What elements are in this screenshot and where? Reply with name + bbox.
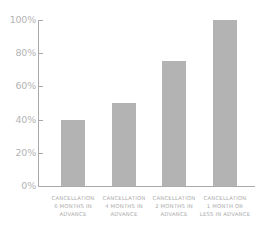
- x-label-line: CANCELLATION: [148, 194, 200, 202]
- bar-2-months: [162, 61, 186, 186]
- x-label-line: ADVANCE: [47, 210, 99, 218]
- y-tick-label-0: 0%: [2, 181, 36, 191]
- y-tick-20: [38, 153, 43, 154]
- y-tick-60: [38, 86, 43, 87]
- x-label-6-months: CANCELLATION 6 MONTHS IN ADVANCE: [47, 194, 99, 218]
- y-tick-label-80: 80%: [2, 48, 36, 58]
- y-tick-label-60: 60%: [2, 81, 36, 91]
- x-label-line: LESS IN ADVANCE: [199, 210, 251, 218]
- y-tick-100: [38, 20, 43, 21]
- x-axis-line: [38, 186, 255, 187]
- x-label-line: 1 MONTH OR: [199, 202, 251, 210]
- x-label-4-months: CANCELLATION 4 MONTHS IN ADVANCE: [98, 194, 150, 218]
- y-tick-label-20: 20%: [2, 148, 36, 158]
- y-tick-80: [38, 53, 43, 54]
- x-label-2-months: CANCELLATION 2 MONTHS IN ADVANCE: [148, 194, 200, 218]
- x-label-1-month-or-less: CANCELLATION 1 MONTH OR LESS IN ADVANCE: [199, 194, 251, 218]
- y-axis-line: [38, 20, 39, 187]
- bar-1-month-or-less: [213, 20, 237, 186]
- bar-chart: 100% 80% 60% 40% 20% 0% CANCELLATION 6 M…: [0, 0, 269, 231]
- x-label-line: CANCELLATION: [199, 194, 251, 202]
- y-tick-40: [38, 120, 43, 121]
- y-tick-label-100: 100%: [2, 15, 36, 25]
- bar-6-months: [61, 120, 85, 186]
- x-label-line: 4 MONTHS IN: [98, 202, 150, 210]
- y-tick-label-40: 40%: [2, 115, 36, 125]
- x-label-line: ADVANCE: [98, 210, 150, 218]
- x-label-line: 6 MONTHS IN: [47, 202, 99, 210]
- x-label-line: CANCELLATION: [47, 194, 99, 202]
- x-label-line: ADVANCE: [148, 210, 200, 218]
- bar-4-months: [112, 103, 136, 186]
- x-label-line: CANCELLATION: [98, 194, 150, 202]
- x-label-line: 2 MONTHS IN: [148, 202, 200, 210]
